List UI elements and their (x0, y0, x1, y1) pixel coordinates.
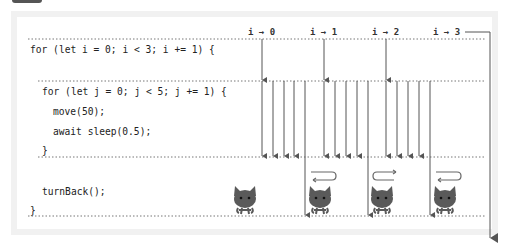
turn-arrows (311, 170, 461, 182)
cat-initial (234, 186, 256, 214)
flow-arrows (0, 0, 519, 249)
cat-after-i0 (309, 186, 331, 214)
section-dividers (28, 39, 485, 216)
cat-after-i2 (434, 186, 456, 214)
cat-after-i1 (371, 186, 393, 214)
